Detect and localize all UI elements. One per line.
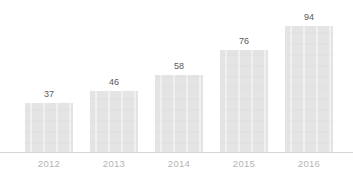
- x-tick-label-2016: 2016: [285, 157, 333, 171]
- x-tick-label-2012: 2012: [25, 157, 73, 171]
- bar-2015[interactable]: [220, 50, 268, 153]
- bar-2013[interactable]: [90, 91, 138, 153]
- bar-value-label: 58: [155, 61, 203, 71]
- x-axis-line: [0, 152, 353, 153]
- bar-2014[interactable]: [155, 75, 203, 153]
- x-tick-label-2013: 2013: [90, 157, 138, 171]
- bar-group: 37: [25, 0, 73, 153]
- bar-2012[interactable]: [25, 103, 73, 153]
- bar-group: 76: [220, 0, 268, 153]
- bar-group: 46: [90, 0, 138, 153]
- x-axis-labels: 2012 2013 2014 2015 2016: [0, 157, 353, 173]
- x-tick-label-2014: 2014: [155, 157, 203, 171]
- bar-group: 94: [285, 0, 333, 153]
- bar-group: 58: [155, 0, 203, 153]
- bar-value-label: 37: [25, 89, 73, 99]
- plot-area: 37 46 58 76 94: [0, 0, 353, 153]
- bar-value-label: 76: [220, 36, 268, 46]
- bar-chart: ··· ··· ··· ··· ··· ··· ··· ··· 37 46 58…: [0, 0, 353, 176]
- bar-2016[interactable]: [285, 26, 333, 153]
- x-tick-label-2015: 2015: [220, 157, 268, 171]
- bar-value-label: 46: [90, 77, 138, 87]
- bar-value-label: 94: [285, 12, 333, 22]
